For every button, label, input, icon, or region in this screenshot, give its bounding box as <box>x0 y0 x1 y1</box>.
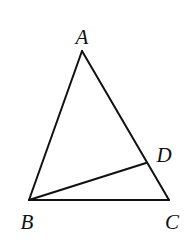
diagram-canvas: A B C D <box>0 0 193 245</box>
point-label-d: D <box>155 143 171 167</box>
segment-ab <box>29 51 82 200</box>
segment-bd <box>29 163 146 200</box>
vertex-label-b: B <box>21 210 34 234</box>
vertex-label-a: A <box>74 25 89 49</box>
triangle-diagram: A B C D <box>0 0 193 245</box>
segment-ac <box>82 51 169 200</box>
vertex-label-c: C <box>165 210 180 234</box>
